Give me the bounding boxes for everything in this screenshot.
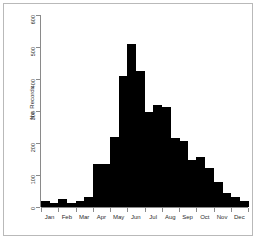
- y-tick-label: 0: [30, 207, 36, 233]
- y-tick: [36, 79, 40, 80]
- x-tick-label: Jan: [45, 214, 55, 220]
- y-tick-label: 600: [30, 15, 36, 41]
- y-tick-label: 300: [30, 111, 36, 137]
- x-tick: [58, 208, 59, 212]
- x-tick-label: Feb: [62, 214, 72, 220]
- x-tick: [41, 208, 42, 212]
- y-tick: [36, 47, 40, 48]
- x-tick-label: Dec: [234, 214, 245, 220]
- x-tick: [76, 208, 77, 212]
- x-tick: [110, 208, 111, 212]
- x-tick: [196, 208, 197, 212]
- histogram-bars: [41, 15, 248, 207]
- x-tick-label: May: [113, 214, 124, 220]
- y-tick: [36, 111, 40, 112]
- x-tick-label: Sep: [182, 214, 193, 220]
- y-tick: [36, 143, 40, 144]
- y-tick: [36, 207, 40, 208]
- figure-frame: No. Records 0100200300400500600 JanFebMa…: [3, 3, 253, 236]
- x-tick: [248, 208, 249, 212]
- y-tick-label: 100: [30, 175, 36, 201]
- y-tick-label: 400: [30, 79, 36, 105]
- y-tick: [36, 175, 40, 176]
- x-tick: [162, 208, 163, 212]
- x-tick-label: Nov: [217, 214, 228, 220]
- x-tick-label: Aug: [165, 214, 176, 220]
- y-tick-label: 500: [30, 47, 36, 73]
- x-tick: [231, 208, 232, 212]
- x-tick: [179, 208, 180, 212]
- x-tick: [127, 208, 128, 212]
- x-tick-label: Apr: [97, 214, 106, 220]
- x-tick-label: Mar: [79, 214, 89, 220]
- y-tick: [36, 15, 40, 16]
- y-tick-label: 200: [30, 143, 36, 169]
- x-tick-label: Oct: [200, 214, 209, 220]
- x-tick: [93, 208, 94, 212]
- x-tick: [214, 208, 215, 212]
- x-tick-label: Jul: [149, 214, 157, 220]
- x-tick: [145, 208, 146, 212]
- x-tick-label: Jun: [131, 214, 141, 220]
